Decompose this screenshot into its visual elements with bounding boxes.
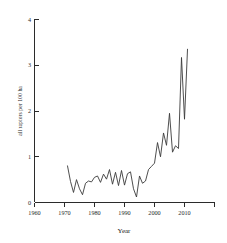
x-axis-ticks: [35, 203, 215, 208]
data-series-line: [68, 49, 188, 197]
y-axis-tick-labels: 4 3 2 1 0: [28, 16, 31, 206]
y-tick-label: 1: [28, 153, 31, 160]
x-axis-tick-labels: 1960 1970 1980 1990 2000 2010: [28, 209, 190, 216]
x-axis-title: Year: [118, 227, 132, 235]
x-tick-label: 1990: [118, 209, 130, 216]
line-chart: 4 3 2 1 0 1960 1970 1980 1990 2000 2010: [0, 0, 227, 243]
x-tick-label: 1980: [88, 209, 100, 216]
x-tick-label: 1960: [28, 209, 40, 216]
x-tick-label: 2010: [178, 209, 190, 216]
y-tick-label: 0: [28, 199, 31, 206]
y-tick-label: 2: [28, 107, 31, 114]
y-tick-label: 4: [28, 16, 31, 23]
x-tick-label: 2000: [148, 209, 160, 216]
chart-figure: 4 3 2 1 0 1960 1970 1980 1990 2000 2010: [0, 0, 227, 243]
y-axis-ticks: [35, 20, 40, 203]
y-tick-label: 3: [28, 61, 31, 68]
y-axis-title: all raptors per 100 ha: [17, 86, 23, 136]
x-tick-label: 1970: [58, 209, 70, 216]
